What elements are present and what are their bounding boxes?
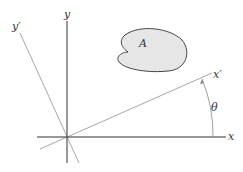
y-prime-label: y′ (11, 20, 21, 33)
x-prime-axis (40, 73, 212, 149)
y-prime-axis (20, 33, 79, 163)
area-a-shape (118, 29, 187, 72)
y-axis-label: y (63, 8, 71, 21)
coordinate-diagram: y y′ x x′ A θ (0, 0, 243, 172)
x-axis-label: x (228, 130, 235, 143)
angle-label: θ (211, 101, 218, 114)
area-label: A (138, 37, 147, 50)
x-prime-label: x′ (213, 68, 222, 81)
